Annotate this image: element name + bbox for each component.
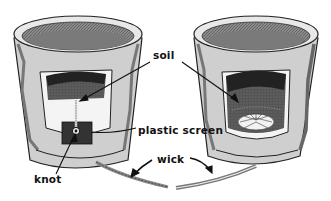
wick-label: wick	[157, 154, 184, 165]
right-pot	[176, 16, 318, 188]
pots-illustration	[0, 0, 331, 201]
knot-label: knot	[34, 174, 62, 185]
left-pot	[14, 16, 168, 187]
soil-label: soil	[153, 50, 174, 61]
plastic-screen-label: plastic screen	[138, 125, 223, 136]
diagram-canvas: soil plastic screen knot wick	[0, 0, 331, 201]
